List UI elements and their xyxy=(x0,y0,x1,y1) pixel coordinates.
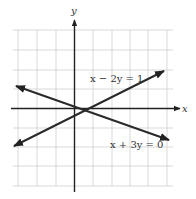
equation-label-2: x + 3y = 0 xyxy=(110,139,164,150)
equation-label-1: x − 2y = 1 xyxy=(90,73,144,84)
y-axis-label: y xyxy=(70,5,77,16)
coordinate-plane: x y x − 2y = 1 x + 3y = 0 xyxy=(0,0,196,199)
line-x-plus-3y-eq-0 xyxy=(16,86,169,140)
x-axis-label: x xyxy=(182,103,188,114)
